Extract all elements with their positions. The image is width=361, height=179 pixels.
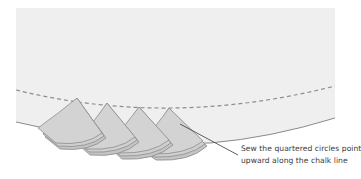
caption-line-2: upward along the chalk line bbox=[241, 155, 361, 167]
caption-line-1: Sew the quartered circles point bbox=[241, 143, 361, 155]
caption: Sew the quartered circles point upward a… bbox=[241, 143, 361, 167]
